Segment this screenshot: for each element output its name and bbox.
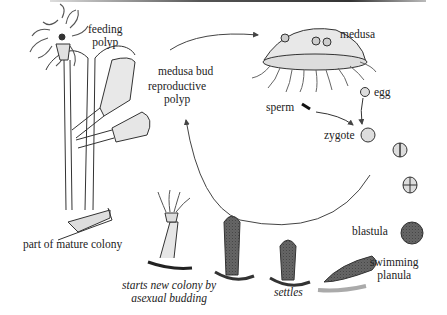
label-line: swimming xyxy=(370,256,419,269)
label-line: feeding xyxy=(88,23,122,36)
label-medusa: medusa xyxy=(340,28,375,41)
label-line: reproductive xyxy=(148,80,206,93)
label-zygote: zygote xyxy=(324,129,355,142)
label-feeding-polyp: feeding polyp xyxy=(88,23,122,49)
label-sperm: sperm xyxy=(266,101,294,114)
label-line: planula xyxy=(370,269,419,282)
larval-stages xyxy=(148,190,376,291)
label-medusa-bud: medusa bud xyxy=(158,65,213,78)
label-line: polyp xyxy=(88,36,122,49)
sexual-stages xyxy=(302,88,423,245)
label-starts-new-colony: starts new colony by asexual budding xyxy=(122,279,216,305)
label-blastula: blastula xyxy=(352,225,388,238)
label-reproductive-polyp: reproductive polyp xyxy=(148,80,206,106)
label-line: starts new colony by xyxy=(122,279,216,292)
label-line: polyp xyxy=(148,93,206,106)
label-settles: settles xyxy=(274,286,303,299)
label-swimming-planula: swimming planula xyxy=(370,256,419,282)
label-line: asexual budding xyxy=(122,292,216,305)
label-part-of-mature-colony: part of mature colony xyxy=(23,238,122,251)
label-egg: egg xyxy=(374,86,391,99)
